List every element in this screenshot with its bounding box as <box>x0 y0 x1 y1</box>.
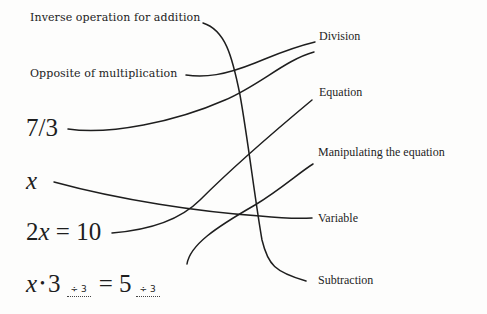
right-item-subtraction: Subtraction <box>318 273 373 288</box>
right-item-manipulating: Manipulating the equation <box>318 145 445 160</box>
left-item-fraction: 7/3 <box>26 114 58 142</box>
line-equation-to-equation <box>112 100 312 233</box>
right-item-division: Division <box>319 29 360 44</box>
line-fraction-to-division <box>68 52 314 130</box>
dot-operator: • <box>40 276 45 291</box>
variable-x: x <box>26 167 37 194</box>
divide-by-3-blank-2: ÷ 3 <box>136 284 160 297</box>
left-item-opposite-multiplication: Opposite of multiplication <box>30 67 178 80</box>
left-item-manipulation: x•3÷ 3= 5÷ 3 <box>26 270 160 298</box>
right-item-equation: Equation <box>319 85 362 100</box>
left-item-variable-x: x <box>26 167 37 195</box>
right-item-variable: Variable <box>318 211 358 226</box>
left-item-inverse-addition: Inverse operation for addition <box>30 11 200 24</box>
line-manipulation-to-manipulating <box>187 164 313 264</box>
divide-by-3-blank-1: ÷ 3 <box>67 284 91 297</box>
left-item-equation: 2x = 10 <box>26 218 101 246</box>
